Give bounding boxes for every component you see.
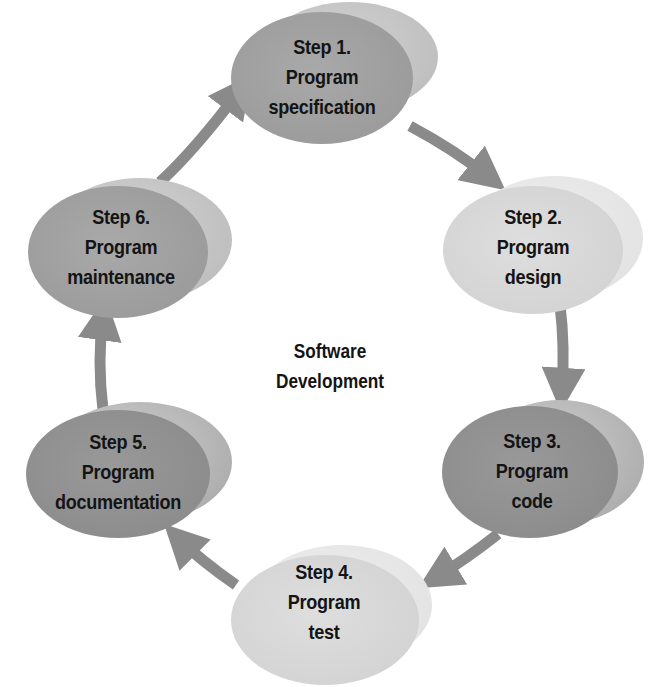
step-4-number: Step 4.	[255, 557, 393, 587]
step-5-label: Step 5. Program documentation	[41, 427, 196, 517]
step-5-line2: Program	[41, 457, 196, 487]
step-4-label: Step 4. Program test	[255, 557, 393, 647]
step-5-number: Step 5.	[41, 427, 196, 457]
step-3-line3: code	[463, 486, 601, 516]
step-6-number: Step 6.	[48, 202, 194, 232]
step-2-line3: design	[464, 262, 602, 292]
step-2-line2: Program	[464, 232, 602, 262]
step-3-label: Step 3. Program code	[463, 426, 601, 516]
arrow-2-to-3	[560, 305, 563, 392]
step-6-line2: Program	[48, 232, 194, 262]
arrow-5-to-6	[100, 316, 103, 410]
step-5-line3: documentation	[41, 487, 196, 517]
software-development-cycle-diagram: Step 1. Program specification Step 2. Pr…	[0, 0, 669, 687]
step-4-line3: test	[255, 617, 393, 647]
step-1-number: Step 1.	[253, 32, 391, 62]
arrow-6-to-1	[160, 90, 240, 182]
step-2-label: Step 2. Program design	[464, 202, 602, 292]
step-1-line3: specification	[253, 92, 391, 122]
arrow-1-to-2	[410, 126, 490, 178]
step-1-label: Step 1. Program specification	[253, 32, 391, 122]
step-2-number: Step 2.	[464, 202, 602, 232]
step-6-line3: maintenance	[48, 262, 194, 292]
diagram-title-line2: Development	[257, 366, 403, 396]
diagram-title: Software Development	[257, 336, 403, 396]
arrow-3-to-4	[435, 534, 498, 578]
diagram-title-line1: Software	[257, 336, 403, 366]
arrow-4-to-5	[178, 538, 236, 585]
step-6-label: Step 6. Program maintenance	[48, 202, 194, 292]
step-1-line2: Program	[253, 62, 391, 92]
step-3-line2: Program	[463, 456, 601, 486]
step-3-number: Step 3.	[463, 426, 601, 456]
step-4-line2: Program	[255, 587, 393, 617]
